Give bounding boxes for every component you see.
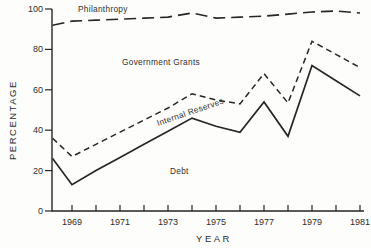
y-tick-label-0: 0 — [38, 206, 43, 216]
region-label-debt: Debt — [170, 166, 189, 176]
x-axis-title: YEAR — [196, 233, 232, 244]
series-line-government-grants-lower-boundary — [53, 41, 360, 156]
axes-layer: 0204060801001969197119731975197719791981 — [28, 4, 370, 227]
chart-canvas: 0204060801001969197119731975197719791981… — [0, 0, 371, 248]
x-tick-label-1975: 1975 — [206, 217, 226, 227]
y-axis-title: PERCENTAGE — [7, 80, 18, 160]
series-layer — [53, 11, 360, 185]
y-tick-label-20: 20 — [33, 166, 43, 176]
region-label-internal-reserves: Internal Reserves — [155, 96, 225, 128]
x-tick-label-1977: 1977 — [254, 217, 274, 227]
y-tick-label-80: 80 — [33, 44, 43, 54]
x-tick-label-1979: 1979 — [302, 217, 322, 227]
y-tick-label-60: 60 — [33, 85, 43, 95]
y-tick-label-100: 100 — [28, 4, 43, 14]
x-tick-label-1971: 1971 — [110, 217, 130, 227]
region-label-government-grants: Government Grants — [122, 57, 200, 67]
x-tick-label-1969: 1969 — [62, 217, 82, 227]
x-tick-label-1973: 1973 — [158, 217, 178, 227]
region-label-philanthropy: Philanthropy — [78, 4, 128, 14]
y-tick-label-40: 40 — [33, 125, 43, 135]
figure-stacked-percentage-chart: 0204060801001969197119731975197719791981… — [0, 0, 371, 248]
series-line-internal-reserves-lower-boundary — [53, 66, 360, 185]
x-tick-label-1981: 1981 — [350, 217, 370, 227]
